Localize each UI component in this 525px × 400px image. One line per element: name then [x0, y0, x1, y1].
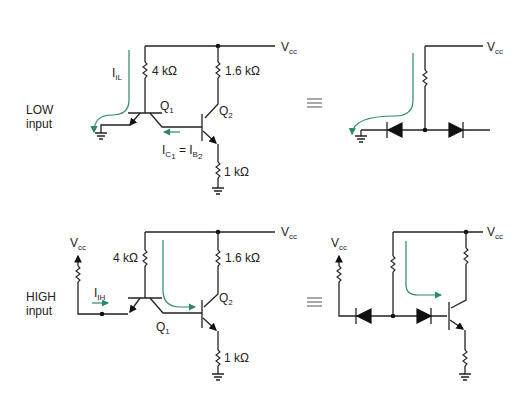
current-path-arrow: [163, 240, 195, 307]
resistor-1k: [216, 162, 220, 178]
resistor-4k: [143, 250, 147, 266]
q2-emitter: [203, 131, 216, 143]
r3-label: 1 kΩ: [224, 351, 249, 365]
current-path-arrow: [406, 241, 441, 295]
vcc-label: Vcc: [281, 40, 297, 56]
r3-label: 1 kΩ: [224, 165, 249, 179]
q1-label: Q1: [160, 99, 174, 115]
input-resistor: [76, 266, 80, 282]
equiv-vcc-label: Vcc: [487, 40, 503, 56]
r2-label: 1.6 kΩ: [225, 251, 260, 265]
equiv-resistor-4k: [391, 256, 395, 272]
q1-collector: [150, 113, 202, 127]
r1-label: 4 kΩ: [113, 251, 138, 265]
high-mode-label-line1: HIGH: [26, 290, 56, 304]
q2-label: Q2: [219, 291, 233, 307]
equiv-resistor: [423, 70, 427, 86]
current-relation: IC1 = IB2: [162, 143, 203, 161]
junction-dot: [100, 312, 105, 317]
diode-left-icon: [388, 123, 402, 137]
diode-right-icon: [449, 123, 463, 137]
q2-label: Q2: [219, 104, 233, 120]
ground-icon: [212, 188, 224, 194]
ground-icon: [355, 136, 367, 142]
equiv-vcc-label: Vcc: [487, 225, 503, 241]
diode-left-icon: [357, 309, 371, 323]
current-label: IIL: [112, 66, 123, 82]
q2-emitter: [203, 318, 216, 330]
current-path-arrow: [94, 50, 129, 132]
vcc-label: Vcc: [281, 225, 297, 241]
low-input-circuit: LOW input Vcc 4 kΩ 1.6 kΩ Q1 1 kΩ Q2: [26, 40, 503, 194]
ttl-input-circuit-diagram: LOW input Vcc 4 kΩ 1.6 kΩ Q1 1 kΩ Q2: [0, 0, 525, 400]
junction-dot: [423, 128, 428, 133]
diode-right-icon: [417, 309, 431, 323]
equivalence-icon: [307, 99, 322, 107]
r1-label: 4 kΩ: [152, 64, 177, 78]
q1-emitter: [130, 113, 140, 125]
high-mode-label-line2: input: [26, 304, 53, 318]
equivalence-icon: [307, 298, 322, 306]
equiv-resistor-1k: [463, 350, 467, 366]
q1-label: Q1: [156, 320, 170, 336]
input-current-label: IIH: [94, 286, 106, 302]
resistor-1k6: [216, 250, 220, 266]
r2-label: 1.6 kΩ: [225, 64, 260, 78]
current-path-arrow: [352, 53, 413, 134]
q1-collector: [150, 298, 202, 313]
ground-icon: [459, 374, 471, 380]
low-mode-label-line2: input: [26, 117, 53, 131]
q1-emitter: [130, 298, 140, 312]
resistor-1k6: [216, 62, 220, 78]
resistor-1k: [216, 350, 220, 366]
low-mode-label-line1: LOW: [26, 103, 54, 117]
input-vcc-label: Vcc: [70, 236, 86, 252]
ground-icon: [212, 374, 224, 380]
high-input-circuit: HIGH input Vcc IIH Vcc 4 kΩ 1.6 kΩ Q1: [26, 225, 503, 380]
equiv-resistor-1k6: [464, 248, 468, 264]
equiv-transistor-emitter: [450, 320, 463, 329]
ground-icon: [95, 133, 107, 139]
resistor-4k: [143, 62, 147, 78]
equiv-input-resistor: [337, 266, 341, 282]
equiv-input-vcc-label: Vcc: [331, 236, 347, 252]
